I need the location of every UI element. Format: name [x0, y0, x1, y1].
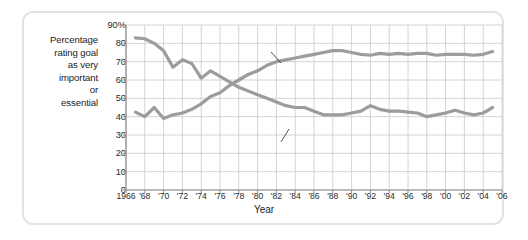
line-chart-plot [0, 0, 528, 240]
